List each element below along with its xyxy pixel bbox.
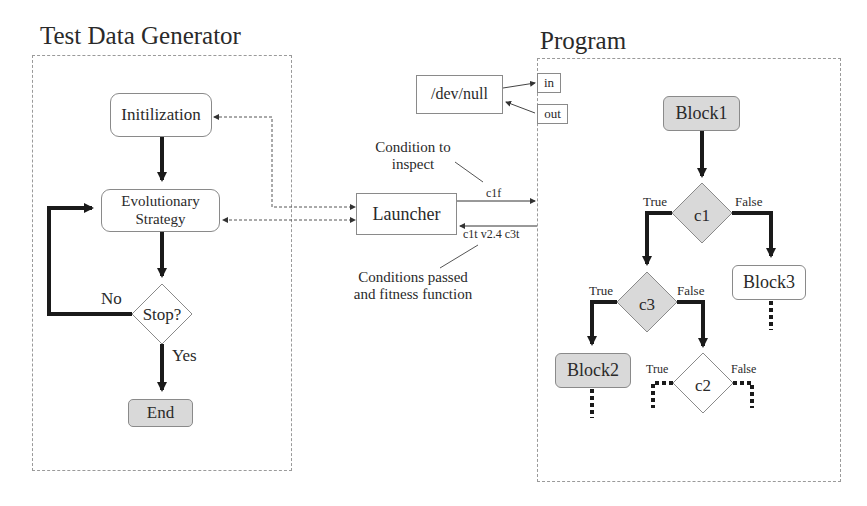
initialization-node: Initilization — [110, 93, 212, 137]
c2-false-continuation — [733, 383, 752, 408]
in-port-label: in — [544, 76, 554, 91]
out-port-label: out — [544, 107, 561, 122]
end-label: End — [147, 403, 174, 423]
c2-true-continuation — [653, 383, 673, 408]
block1-node: Block1 — [663, 96, 740, 131]
c1-false-label: False — [735, 195, 762, 210]
devnull-node: /dev/null — [416, 75, 503, 114]
block2-label: Block2 — [567, 360, 619, 381]
c3-label: c3 — [639, 295, 655, 314]
returned-conditions-label: c1t v2.4 c3t — [463, 228, 519, 242]
block3-label: Block3 — [743, 272, 795, 293]
c1-false-arrow — [732, 213, 771, 256]
no-edge-label: No — [101, 289, 122, 309]
yes-edge-label: Yes — [172, 346, 197, 366]
conditions-passed-annotation: Conditions passed and fitness function — [338, 269, 488, 304]
out-to-devnull-connector — [506, 102, 535, 113]
c3-decision-diamond: c3 — [617, 272, 677, 332]
c2-false-label: False — [731, 363, 756, 377]
launcher-to-init-connector — [214, 117, 352, 207]
evolutionary-label: Evolutionary — [121, 193, 199, 210]
devnull-to-in-connector — [503, 83, 535, 88]
c3-false-label: False — [677, 284, 704, 299]
block1-label: Block1 — [676, 103, 728, 124]
launcher-node: Launcher — [356, 193, 457, 235]
evolutionary-strategy-node: Evolutionary Strategy — [101, 189, 220, 232]
devnull-label: /dev/null — [431, 85, 488, 103]
c1-label: c1 — [694, 206, 710, 225]
initialization-label: Initilization — [121, 105, 200, 125]
c2-label: c2 — [695, 376, 711, 395]
conditions-passed-line1: Conditions passed — [338, 269, 488, 286]
in-port: in — [537, 73, 561, 93]
stop-decision-diamond: Stop? — [132, 284, 192, 344]
c1-true-arrow — [647, 213, 672, 264]
condition-to-inspect-annotation: Condition to inspect — [363, 139, 463, 174]
stop-label: Stop? — [143, 305, 182, 324]
conditions-passed-line2: and fitness function — [338, 286, 488, 303]
block2-node: Block2 — [555, 353, 631, 388]
c1-true-label: True — [643, 195, 667, 210]
c1-decision-diamond: c1 — [672, 183, 732, 243]
conditions-passed-pointer-line — [440, 245, 478, 268]
sent-condition-label: c1f — [486, 187, 501, 201]
condition-to-inspect-line1: Condition to — [363, 139, 463, 156]
c3-true-arrow — [592, 302, 617, 344]
block3-node: Block3 — [732, 265, 806, 300]
c2-decision-diamond: c2 — [673, 353, 733, 413]
c3-true-label: True — [589, 284, 613, 299]
condition-to-inspect-line2: inspect — [363, 156, 463, 173]
strategy-label: Strategy — [136, 211, 186, 228]
end-node: End — [128, 399, 193, 427]
launcher-label: Launcher — [373, 204, 441, 225]
c3-false-arrow — [677, 302, 703, 346]
c2-true-label: True — [646, 363, 668, 377]
out-port: out — [537, 104, 568, 124]
